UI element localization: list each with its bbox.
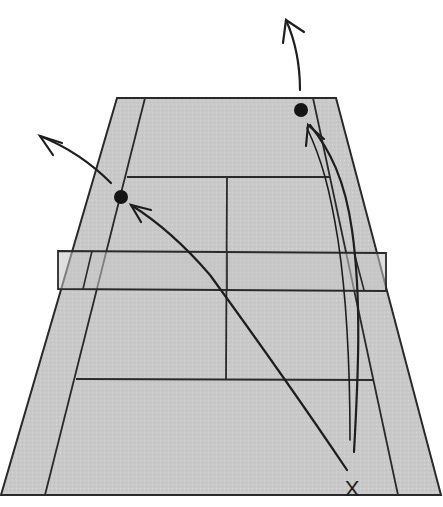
ball-right-landing bbox=[294, 103, 308, 117]
player-marker: X bbox=[345, 476, 360, 501]
net-band bbox=[58, 251, 386, 291]
court-surface bbox=[1, 98, 441, 495]
bounce-arrow-right bbox=[286, 20, 300, 90]
ball-left-landing bbox=[114, 190, 128, 204]
near-service-line bbox=[76, 379, 373, 380]
tennis-court-diagram: X bbox=[0, 0, 443, 507]
net bbox=[58, 251, 386, 291]
